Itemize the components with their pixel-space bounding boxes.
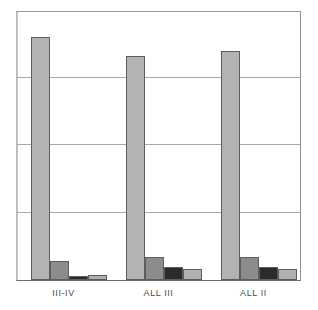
- bar: [240, 257, 259, 280]
- bar: [50, 261, 69, 280]
- bar: [88, 275, 107, 280]
- bar: [278, 269, 297, 280]
- x-axis-tick-label: ALL III: [111, 288, 206, 298]
- bar: [145, 257, 164, 280]
- bar-group: [112, 12, 207, 280]
- bar-chart: III-IVALL IIIALL II: [0, 0, 318, 310]
- x-axis-tick-label: III-IV: [16, 288, 111, 298]
- x-axis-tick-label: ALL II: [206, 288, 301, 298]
- bar: [126, 56, 145, 280]
- bar: [164, 267, 183, 281]
- bar: [259, 267, 278, 281]
- bar: [183, 269, 202, 280]
- bar-group: [207, 12, 302, 280]
- bar: [69, 276, 88, 280]
- bar: [221, 51, 240, 281]
- plot-area: [16, 11, 301, 281]
- bar-group: [17, 12, 112, 280]
- bar: [31, 37, 50, 280]
- bars-layer: [17, 12, 300, 280]
